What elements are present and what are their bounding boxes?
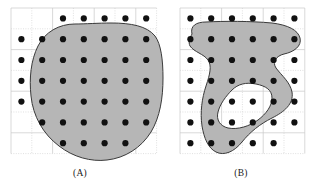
lattice-dot	[102, 140, 108, 146]
lattice-dot	[291, 78, 297, 84]
lattice-dot	[271, 36, 277, 42]
lattice-dot	[208, 15, 214, 21]
lattice-dot	[81, 99, 87, 105]
lattice-dot	[187, 57, 193, 63]
lattice-dot	[122, 36, 128, 42]
lattice-dot	[187, 99, 193, 105]
lattice-dot	[143, 36, 149, 42]
lattice-dot	[143, 15, 149, 21]
lattice-dot	[229, 15, 235, 21]
lattice-dot	[229, 36, 235, 42]
lattice-dot	[229, 99, 235, 105]
lattice-dot	[122, 99, 128, 105]
lattice-dot	[102, 36, 108, 42]
lattice-dot	[102, 57, 108, 63]
lattice-dot	[18, 36, 24, 42]
lattice-dot	[208, 119, 214, 125]
lattice-dot	[291, 15, 297, 21]
lattice-dot	[81, 36, 87, 42]
lattice-dot	[81, 57, 87, 63]
panel-b-caption: (B)	[234, 168, 247, 179]
lattice-dot	[271, 78, 277, 84]
lattice-dot	[271, 57, 277, 63]
lattice-dot	[208, 57, 214, 63]
lattice-dot	[208, 78, 214, 84]
lattice-dot	[81, 140, 87, 146]
lattice-dot	[208, 36, 214, 42]
lattice-dot	[60, 36, 66, 42]
lattice-dot	[250, 78, 256, 84]
lattice-dot	[250, 119, 256, 125]
lattice-dot	[250, 99, 256, 105]
lattice-dot	[60, 140, 66, 146]
lattice-dot	[229, 140, 235, 146]
lattice-dot	[81, 119, 87, 125]
lattice-dot	[208, 99, 214, 105]
lattice-dot	[250, 36, 256, 42]
lattice-dot	[122, 57, 128, 63]
lattice-dot	[187, 78, 193, 84]
lattice-dot	[271, 140, 277, 146]
lattice-dot	[102, 119, 108, 125]
lattice-dot	[250, 140, 256, 146]
lattice-dot	[102, 78, 108, 84]
lattice-dot	[271, 15, 277, 21]
lattice-dot	[187, 36, 193, 42]
lattice-dot	[39, 119, 45, 125]
lattice-dot	[60, 119, 66, 125]
lattice-dot	[229, 119, 235, 125]
lattice-dot	[81, 78, 87, 84]
lattice-dot	[102, 99, 108, 105]
figure-two-panel-lattice-regions: (A) (B)	[0, 0, 321, 186]
lattice-dot	[81, 15, 87, 21]
lattice-dot	[39, 78, 45, 84]
lattice-dot	[143, 57, 149, 63]
lattice-dot	[60, 57, 66, 63]
lattice-dot	[229, 57, 235, 63]
lattice-dot	[291, 36, 297, 42]
lattice-dot	[143, 78, 149, 84]
lattice-dot	[250, 57, 256, 63]
lattice-dot	[18, 99, 24, 105]
lattice-dot	[60, 78, 66, 84]
lattice-dot	[291, 119, 297, 125]
lattice-dot	[271, 99, 277, 105]
lattice-dot	[187, 15, 193, 21]
lattice-dot	[122, 15, 128, 21]
lattice-dot	[229, 78, 235, 84]
lattice-dot	[250, 15, 256, 21]
lattice-dot	[122, 119, 128, 125]
lattice-dot	[102, 15, 108, 21]
panel-a-caption: (A)	[73, 168, 87, 179]
lattice-dot	[39, 36, 45, 42]
lattice-dot	[143, 119, 149, 125]
lattice-dot	[187, 119, 193, 125]
lattice-dot	[143, 99, 149, 105]
lattice-dot	[271, 119, 277, 125]
lattice-dot	[18, 57, 24, 63]
lattice-dot	[122, 140, 128, 146]
lattice-dot	[208, 140, 214, 146]
lattice-dot	[18, 78, 24, 84]
lattice-dot	[60, 99, 66, 105]
lattice-dot	[60, 15, 66, 21]
lattice-dot	[291, 57, 297, 63]
lattice-dot	[291, 99, 297, 105]
lattice-dot	[187, 140, 193, 146]
lattice-dot	[39, 99, 45, 105]
lattice-dot	[122, 78, 128, 84]
lattice-dot	[39, 57, 45, 63]
